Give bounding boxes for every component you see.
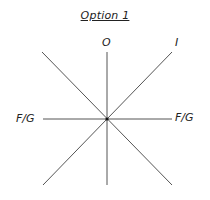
label-top-right: I — [175, 36, 178, 49]
label-right: F/G — [175, 111, 194, 124]
label-left: F/G — [16, 112, 35, 125]
label-top: O — [102, 36, 111, 49]
line-star — [0, 0, 210, 200]
diagram-canvas: Option 1 O I F/G F/G — [0, 0, 210, 200]
center-point — [105, 117, 108, 120]
